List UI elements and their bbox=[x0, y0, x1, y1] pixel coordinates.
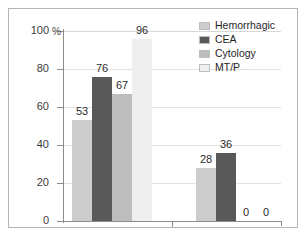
legend-label: CEA bbox=[215, 34, 237, 45]
legend-label: Cytology bbox=[215, 48, 256, 59]
chart-frame: 020406080100 % 53766796283600 Hemorrhagi… bbox=[8, 8, 298, 228]
y-tick-label-20: 20 bbox=[19, 177, 49, 188]
legend-swatch-icon bbox=[199, 64, 210, 72]
data-label-cea-g1: 76 bbox=[92, 63, 112, 74]
y-tick-40 bbox=[57, 145, 63, 146]
y-tick-80 bbox=[57, 69, 63, 70]
legend-item-cytology[interactable]: Cytology bbox=[199, 47, 291, 60]
legend-item-hemorrhagic[interactable]: Hemorrhagic bbox=[199, 19, 291, 32]
y-tick-20 bbox=[57, 183, 63, 184]
bar-hemorrhagic-g1 bbox=[72, 120, 92, 221]
y-tick-label-100: 100 bbox=[19, 25, 49, 36]
y-tick-label-80: 80 bbox=[19, 63, 49, 74]
legend-swatch-icon bbox=[199, 36, 210, 44]
bar-cytology-g1 bbox=[112, 94, 132, 221]
data-label-hemorrhagic-g2: 28 bbox=[196, 154, 216, 165]
bar-hemorrhagic-g2 bbox=[196, 168, 216, 221]
data-label-mt-p-g2: 0 bbox=[256, 207, 276, 218]
x-axis-tick-middle bbox=[172, 221, 173, 227]
legend-item-cea[interactable]: CEA bbox=[199, 33, 291, 46]
bar-mt-p-g1 bbox=[132, 39, 152, 221]
data-label-mt-p-g1: 96 bbox=[132, 25, 152, 36]
y-tick-60 bbox=[57, 107, 63, 108]
legend-swatch-icon bbox=[199, 22, 210, 30]
y-tick-label-40: 40 bbox=[19, 139, 49, 150]
chart-legend: HemorrhagicCEACytologyMT/P bbox=[197, 17, 291, 77]
bar-cea-g1 bbox=[92, 77, 112, 221]
x-axis-tick-end bbox=[281, 221, 282, 226]
y-tick-0 bbox=[57, 221, 63, 222]
data-label-hemorrhagic-g1: 53 bbox=[72, 106, 92, 117]
data-label-cytology-g2: 0 bbox=[236, 207, 256, 218]
y-tick-label-0: 0 bbox=[19, 215, 49, 226]
data-label-cea-g2: 36 bbox=[216, 139, 236, 150]
legend-item-mt-p[interactable]: MT/P bbox=[199, 61, 291, 74]
legend-label: MT/P bbox=[215, 62, 240, 73]
percent-axis-label: % bbox=[52, 26, 61, 37]
legend-label: Hemorrhagic bbox=[215, 20, 275, 31]
bar-cea-g2 bbox=[216, 153, 236, 221]
data-label-cytology-g1: 67 bbox=[112, 80, 132, 91]
y-tick-label-60: 60 bbox=[19, 101, 49, 112]
legend-swatch-icon bbox=[199, 50, 210, 58]
